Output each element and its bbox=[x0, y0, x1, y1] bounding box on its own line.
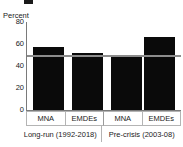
category-label-emdes-pre-crisis: EMDEs bbox=[142, 111, 182, 126]
y-tick-20: 20 bbox=[16, 84, 24, 92]
reference-line-50 bbox=[27, 55, 181, 57]
group-label-long-run: Long-run (1992-2018) bbox=[20, 126, 101, 142]
y-tick-0: 0 bbox=[20, 106, 24, 114]
group-label-row: Long-run (1992-2018) Pre-crisis (2003-08… bbox=[20, 126, 182, 142]
bar-emdes-pre-crisis bbox=[144, 37, 175, 110]
category-label-mna-pre-crisis: MNA bbox=[103, 111, 142, 126]
bar-chart: Percent 80 60 40 20 0 MNA EMDEs MNA EMDE… bbox=[0, 0, 182, 147]
bar-emdes-long-run bbox=[72, 53, 103, 110]
category-label-row: MNA EMDEs MNA EMDEs bbox=[26, 111, 181, 126]
y-tick-40: 40 bbox=[16, 62, 24, 70]
y-tick-80: 80 bbox=[16, 18, 24, 26]
clipped-figure-artifact bbox=[24, 0, 33, 4]
bar-mna-pre-crisis bbox=[111, 55, 142, 110]
category-label-emdes-long-run: EMDEs bbox=[65, 111, 104, 126]
y-tick-60: 60 bbox=[16, 40, 24, 48]
y-axis-tick-labels: 80 60 40 20 0 bbox=[0, 0, 24, 147]
plot-area bbox=[27, 22, 181, 110]
group-label-pre-crisis: Pre-crisis (2003-08) bbox=[101, 126, 183, 142]
category-label-mna-long-run: MNA bbox=[26, 111, 65, 126]
